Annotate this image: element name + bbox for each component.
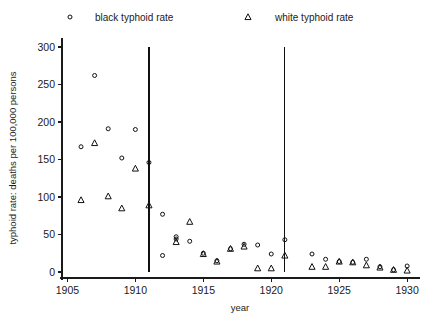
y-tick-label-300: 300 bbox=[37, 41, 55, 53]
point-triangle-1906 bbox=[78, 197, 84, 203]
point-triangle-1908 bbox=[105, 193, 111, 199]
typhoid-rate-scatter-chart: black typhoid ratewhite typhoid rate 050… bbox=[0, 0, 427, 322]
point-triangle-1923 bbox=[309, 264, 315, 270]
series-circle-0 bbox=[79, 74, 409, 272]
point-circle-1907 bbox=[93, 74, 97, 78]
point-triangle-1930 bbox=[404, 267, 410, 273]
point-triangle-1924 bbox=[323, 264, 329, 270]
point-triangle-1919 bbox=[255, 265, 261, 271]
y-tick-label-250: 250 bbox=[37, 78, 55, 90]
point-triangle-1920 bbox=[268, 265, 274, 271]
y-tick-label-200: 200 bbox=[37, 116, 55, 128]
x-tick-label-1910: 1910 bbox=[124, 284, 148, 296]
point-circle-1906 bbox=[79, 145, 83, 149]
point-circle-1927 bbox=[364, 257, 368, 261]
legend-label-1: white typhoid rate bbox=[274, 12, 354, 23]
point-triangle-1909 bbox=[119, 205, 125, 211]
point-triangle-1910 bbox=[132, 165, 138, 171]
series-circle-2 bbox=[161, 235, 179, 258]
point-circle-1920 bbox=[269, 252, 273, 256]
chart-data-points bbox=[78, 74, 410, 274]
legend-marker-triangle bbox=[245, 14, 251, 20]
chart-reference-lines bbox=[149, 47, 285, 272]
point-circle-1914 bbox=[188, 239, 192, 243]
x-tick-label-1905: 1905 bbox=[56, 284, 80, 296]
point-circle-1912 bbox=[161, 212, 165, 216]
y-tick-label-150: 150 bbox=[37, 153, 55, 165]
point-triangle-1907 bbox=[92, 140, 98, 146]
legend-label-0: black typhoid rate bbox=[95, 12, 174, 23]
point-circle-1912 bbox=[161, 254, 165, 258]
y-tick-label-100: 100 bbox=[37, 191, 55, 203]
y-tick-label-0: 0 bbox=[49, 266, 55, 278]
chart-axes: 0501001502002503001905191019151920192519… bbox=[37, 38, 420, 296]
point-circle-1909 bbox=[120, 156, 124, 160]
point-triangle-1927 bbox=[363, 262, 369, 268]
chart-canvas: black typhoid ratewhite typhoid rate 050… bbox=[0, 0, 427, 322]
point-circle-1908 bbox=[106, 127, 110, 131]
legend-marker-circle bbox=[68, 15, 72, 19]
x-tick-label-1915: 1915 bbox=[192, 284, 216, 296]
point-circle-1924 bbox=[324, 257, 328, 261]
series-triangle-1 bbox=[78, 140, 410, 273]
x-tick-label-1925: 1925 bbox=[328, 284, 352, 296]
y-axis-title: typhoid rate: deaths per 100,000 persons bbox=[7, 71, 18, 244]
point-circle-1923 bbox=[310, 252, 314, 256]
x-axis-title: year bbox=[231, 302, 249, 313]
y-tick-label-50: 50 bbox=[43, 228, 55, 240]
point-triangle-1914 bbox=[187, 219, 193, 225]
point-circle-1910 bbox=[133, 128, 137, 132]
x-tick-label-1920: 1920 bbox=[260, 284, 284, 296]
point-circle-1919 bbox=[256, 243, 260, 247]
chart-legend: black typhoid ratewhite typhoid rate bbox=[68, 12, 354, 23]
x-tick-label-1930: 1930 bbox=[395, 284, 419, 296]
